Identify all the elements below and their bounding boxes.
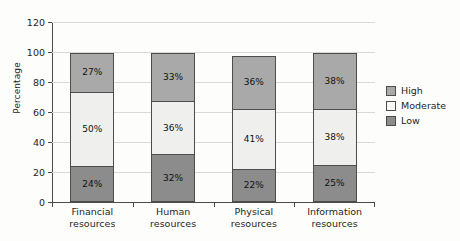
y-axis-tick-label: 20	[33, 167, 45, 178]
bar-segment-low[interactable]: 25%	[313, 165, 357, 203]
bar-segment-moderate[interactable]: 38%	[313, 109, 357, 166]
x-axis-category-label: Informationresources	[287, 206, 383, 230]
legend-swatch-icon	[386, 116, 396, 126]
stacked-bar[interactable]: 36%41%22%	[232, 56, 276, 203]
stacked-bar[interactable]: 27%50%24%	[70, 53, 114, 203]
y-axis-tick	[48, 52, 52, 53]
bar-segment-value-label: 25%	[325, 179, 345, 188]
chart-legend: HighModerateLow	[386, 83, 446, 128]
y-axis-tick-label: 40	[33, 137, 45, 148]
y-axis-tick	[48, 142, 52, 143]
legend-item-label: Low	[401, 115, 420, 126]
x-axis-category-label-line: Information	[307, 206, 362, 217]
bar-segment-value-label: 32%	[163, 174, 183, 183]
bar-segment-low[interactable]: 32%	[151, 154, 195, 202]
plot-area: 020406080100120 27%50%24%33%36%32%36%41%…	[52, 22, 375, 202]
y-axis-tick	[48, 82, 52, 83]
legend-swatch-icon	[386, 86, 396, 96]
bar-segment-moderate[interactable]: 36%	[151, 101, 195, 155]
legend-swatch-icon	[386, 101, 396, 111]
bar-segment-value-label: 36%	[163, 124, 183, 133]
legend-item-label: Moderate	[401, 100, 446, 111]
bar-segment-value-label: 27%	[82, 68, 102, 77]
stacked-bar[interactable]: 38%38%25%	[313, 53, 357, 203]
bar-segment-high[interactable]: 27%	[70, 53, 114, 94]
y-axis-tick-label: 80	[33, 77, 45, 88]
bar-segment-low[interactable]: 24%	[70, 166, 114, 202]
bar-segment-value-label: 41%	[244, 135, 264, 144]
y-axis-tick-label: 60	[33, 107, 45, 118]
bar-segment-high[interactable]: 38%	[313, 53, 357, 110]
bar-segment-moderate[interactable]: 50%	[70, 92, 114, 167]
bar-segment-high[interactable]: 33%	[151, 53, 195, 103]
bar-segment-value-label: 38%	[325, 77, 345, 86]
bar-segment-value-label: 38%	[325, 133, 345, 142]
bar-segment-value-label: 33%	[163, 73, 183, 82]
bar-segment-low[interactable]: 22%	[232, 169, 276, 202]
legend-item-moderate[interactable]: Moderate	[386, 98, 446, 113]
bar-segment-value-label: 50%	[82, 125, 102, 134]
bar-segment-value-label: 24%	[82, 180, 102, 189]
bar-segment-moderate[interactable]: 41%	[232, 109, 276, 171]
y-axis-tick-label: 120	[27, 17, 45, 28]
x-axis-category-label-line: Financial	[72, 206, 114, 217]
y-axis-tick	[48, 172, 52, 173]
gridline: 120	[52, 22, 375, 23]
legend-item-low[interactable]: Low	[386, 113, 446, 128]
stacked-bar-chart: Percentage 020406080100120 27%50%24%33%3…	[0, 0, 460, 241]
y-axis-title: Percentage	[12, 38, 22, 138]
bar-segment-value-label: 22%	[244, 181, 264, 190]
bar-segment-high[interactable]: 36%	[232, 56, 276, 110]
y-axis-tick	[48, 112, 52, 113]
legend-item-high[interactable]: High	[386, 83, 446, 98]
x-axis-category-label-line: resources	[287, 218, 383, 230]
y-axis-tick-label: 100	[27, 47, 45, 58]
legend-item-label: High	[401, 85, 423, 96]
x-axis-category-label-line: Physical	[235, 206, 274, 217]
x-axis-category-label-line: Human	[156, 206, 190, 217]
stacked-bar[interactable]: 33%36%32%	[151, 53, 195, 203]
bar-segment-value-label: 36%	[244, 78, 264, 87]
y-axis-tick	[48, 22, 52, 23]
